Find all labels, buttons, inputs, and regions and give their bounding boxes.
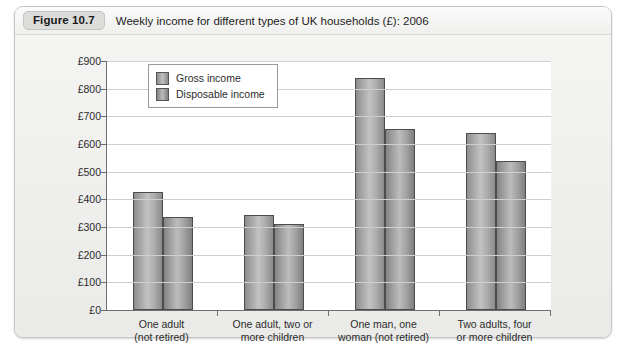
gridline — [107, 199, 551, 200]
bar-gross-income — [466, 133, 496, 310]
y-axis-tick-label: £400 — [55, 193, 101, 205]
y-axis-tick-mark — [101, 144, 106, 145]
figure-card: Figure 10.7 Weekly income for different … — [14, 6, 612, 338]
legend-label-disposable-income: Disposable income — [176, 88, 265, 100]
bar-group — [329, 61, 440, 310]
bar-gross-income — [133, 192, 163, 310]
figure-title: Weekly income for different types of UK … — [116, 15, 429, 27]
x-axis-category-label-line: One adult — [106, 318, 217, 331]
y-axis-tick-label: £100 — [55, 276, 101, 288]
x-axis-category-label: Two adults, fouror more children — [439, 318, 550, 344]
x-axis-category-label-line: Two adults, four — [439, 318, 550, 331]
y-axis-tick-label: £0 — [55, 304, 101, 316]
x-axis-category-label-line: or more children — [439, 331, 550, 344]
y-axis-tick-label: £200 — [55, 249, 101, 261]
bar-gross-income — [244, 215, 274, 310]
legend-label-gross-income: Gross income — [176, 72, 241, 84]
figure-caption-bar: Figure 10.7 Weekly income for different … — [15, 7, 611, 35]
x-axis-tick-mark — [328, 311, 329, 316]
y-axis-tick-mark — [101, 227, 106, 228]
gridline — [107, 144, 551, 145]
bar-disposable-income — [274, 224, 304, 310]
y-axis-tick-label: £900 — [55, 55, 101, 67]
figure-number-badge: Figure 10.7 — [23, 11, 105, 30]
chart-legend: Gross income Disposable income — [148, 64, 278, 108]
y-axis-tick-label: £500 — [55, 166, 101, 178]
x-axis-category-label: One adult(not retired) — [106, 318, 217, 344]
gridline — [107, 116, 551, 117]
x-axis-category-label: One man, onewoman (not retired) — [328, 318, 439, 344]
x-axis-category-label: One adult, two ormore children — [217, 318, 328, 344]
plot-box: Gross income Disposable income — [106, 61, 551, 311]
gridline — [107, 61, 551, 62]
y-axis-tick-mark — [101, 310, 106, 311]
y-axis-tick-mark — [101, 172, 106, 173]
y-axis-tick-mark — [101, 116, 106, 117]
y-axis-tick-mark — [101, 89, 106, 90]
y-axis-tick-mark — [101, 199, 106, 200]
y-axis-tick-mark — [101, 61, 106, 62]
legend-item-gross-income: Gross income — [156, 70, 265, 86]
gridline — [107, 172, 551, 173]
x-axis-category-label-line: One adult, two or — [217, 318, 328, 331]
bar-gross-income — [355, 78, 385, 310]
y-axis-tick-label: £600 — [55, 138, 101, 150]
y-axis-tick-label: £800 — [55, 83, 101, 95]
bar-disposable-income — [163, 217, 193, 310]
gridline — [107, 255, 551, 256]
chart-area: £0£100£200£300£400£500£600£700£800£900 G… — [15, 35, 611, 337]
x-axis-category-label-line: One man, one — [328, 318, 439, 331]
x-axis-tick-mark — [550, 311, 551, 316]
legend-swatch-gross-income — [156, 72, 169, 85]
y-axis-tick-mark — [101, 255, 106, 256]
y-axis-tick-label: £700 — [55, 110, 101, 122]
x-axis-category-label-line: woman (not retired) — [328, 331, 439, 344]
x-axis-tick-mark — [217, 311, 218, 316]
bar-disposable-income — [496, 161, 526, 310]
x-axis-category-label-line: (not retired) — [106, 331, 217, 344]
gridline — [107, 227, 551, 228]
gridline — [107, 282, 551, 283]
legend-swatch-disposable-income — [156, 88, 169, 101]
x-axis-tick-mark — [439, 311, 440, 316]
y-axis-tick-mark — [101, 282, 106, 283]
legend-item-disposable-income: Disposable income — [156, 86, 265, 102]
bar-group — [440, 61, 551, 310]
x-axis-category-label-line: more children — [217, 331, 328, 344]
y-axis-tick-labels: £0£100£200£300£400£500£600£700£800£900 — [53, 35, 101, 337]
y-axis-tick-label: £300 — [55, 221, 101, 233]
